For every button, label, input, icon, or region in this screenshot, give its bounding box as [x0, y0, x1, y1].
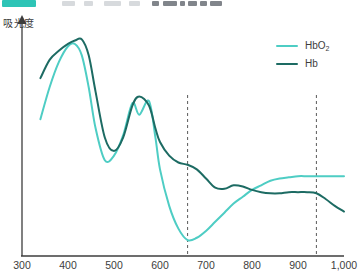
y-axis-arrowhead: [18, 15, 27, 24]
x-tick-400: 400: [59, 259, 77, 271]
x-tick-700: 700: [197, 259, 215, 271]
legend-item-hb: Hb: [276, 57, 356, 71]
chart-screenshot: 吸光度 HbO2 Hb 3004005006007008009001,000: [0, 0, 360, 276]
legend-swatch-hb: [276, 63, 298, 65]
chart-legend: HbO2 Hb: [276, 39, 356, 75]
x-tick-1000: 1,000: [331, 259, 357, 271]
x-tick-300: 300: [13, 259, 31, 271]
x-axis-tick-labels: 3004005006007008009001,000: [0, 259, 360, 275]
x-tick-500: 500: [105, 259, 123, 271]
legend-swatch-hbo2: [276, 45, 298, 47]
x-tick-900: 900: [289, 259, 307, 271]
x-tick-600: 600: [151, 259, 169, 271]
legend-label-hb: Hb: [305, 59, 318, 69]
legend-item-hbo2: HbO2: [276, 39, 356, 53]
x-tick-800: 800: [243, 259, 261, 271]
legend-label-hbo2: HbO2: [305, 41, 329, 51]
